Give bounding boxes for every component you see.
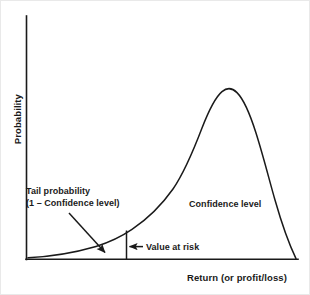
var-distribution-figure: Probability Return (or profit/loss) Tail… <box>0 0 310 295</box>
tail-probability-line-1: Tail probability <box>26 186 90 196</box>
probability-density-curve <box>28 89 296 259</box>
confidence-level-annotation: Confidence level <box>189 199 261 211</box>
tail-probability-arrow <box>69 213 105 253</box>
value-at-risk-annotation: Value at risk <box>146 242 199 254</box>
y-axis-label: Probability <box>12 74 24 164</box>
x-axis-label: Return (or profit/loss) <box>187 272 287 284</box>
tail-probability-line-2: (1 – Confidence level) <box>26 198 120 210</box>
tail-probability-annotation: Tail probability(1 – Confidence level) <box>26 186 120 209</box>
